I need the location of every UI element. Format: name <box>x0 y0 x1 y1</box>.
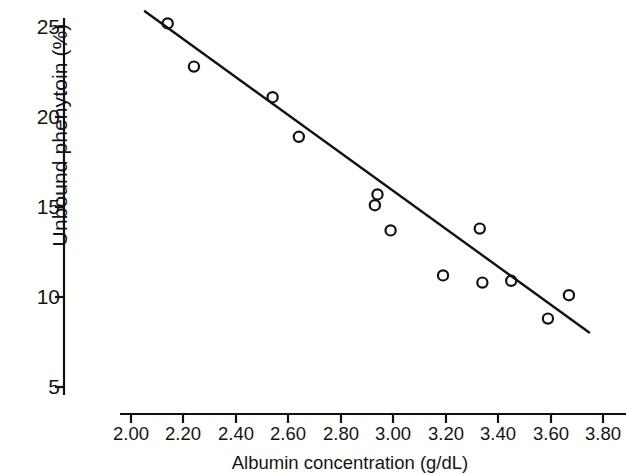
data-point <box>386 225 396 235</box>
data-point <box>372 189 382 199</box>
regression-line <box>144 11 590 333</box>
data-point <box>477 278 487 288</box>
data-point <box>268 92 278 102</box>
data-point <box>370 200 380 210</box>
x-axis <box>120 414 626 423</box>
data-point <box>475 224 485 234</box>
chart-figure: Unbound phenytoin (%) 25 20 15 10 5 2.00… <box>0 0 626 475</box>
data-layer <box>144 11 590 333</box>
data-point <box>189 62 199 72</box>
data-point <box>564 290 574 300</box>
y-axis <box>55 18 64 395</box>
plot-area <box>0 0 626 475</box>
data-point <box>438 270 448 280</box>
data-point <box>294 132 304 142</box>
data-point <box>543 314 553 324</box>
